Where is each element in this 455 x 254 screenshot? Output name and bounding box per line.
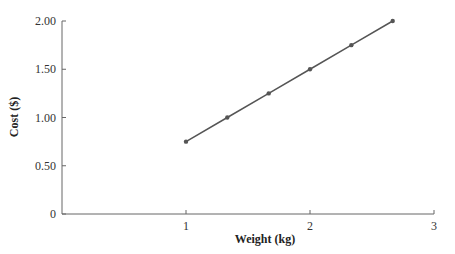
y-ticks: 00.501.001.502.00 <box>35 14 66 221</box>
y-axis-title: Cost ($) <box>7 97 21 137</box>
axes <box>62 21 434 214</box>
data-point <box>349 43 353 47</box>
data-point <box>225 115 229 119</box>
x-tick-label: 3 <box>431 219 437 233</box>
data-point <box>184 139 188 143</box>
data-point <box>391 19 395 23</box>
data-point <box>308 67 312 71</box>
x-axis-title: Weight (kg) <box>235 232 295 246</box>
data-point <box>267 91 271 95</box>
y-tick-label: 0 <box>50 207 56 221</box>
x-tick-label: 1 <box>183 219 189 233</box>
y-tick-label: 1.00 <box>35 111 56 125</box>
y-tick-label: 2.00 <box>35 14 56 28</box>
x-ticks: 123 <box>183 210 437 233</box>
y-tick-label: 1.50 <box>35 62 56 76</box>
y-tick-label: 0.50 <box>35 159 56 173</box>
x-tick-label: 2 <box>307 219 313 233</box>
data-series <box>184 19 395 144</box>
series-line <box>186 21 393 142</box>
line-chart: 00.501.001.502.00 123 Weight (kg) Cost (… <box>0 0 455 254</box>
